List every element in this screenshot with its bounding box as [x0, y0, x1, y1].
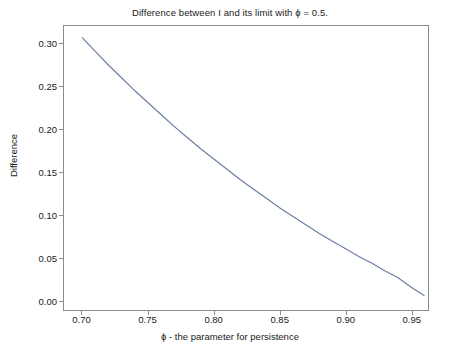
data-series-line	[82, 38, 424, 296]
y-tick-label: 0.20	[9, 123, 57, 134]
x-tick-mark	[81, 311, 82, 315]
y-tick-label: 0.00	[9, 295, 57, 306]
x-tick-mark	[412, 311, 413, 315]
y-tick-label: 0.30	[9, 38, 57, 49]
y-tick-label: 0.15	[9, 166, 57, 177]
x-tick-mark	[346, 311, 347, 315]
x-tick-label: 0.70	[56, 314, 106, 325]
y-tick-label: 0.25	[9, 80, 57, 91]
chart-title: Difference between I and its limit with …	[0, 7, 460, 18]
x-tick-mark	[214, 311, 215, 315]
y-tick-mark	[59, 43, 63, 44]
x-tick-label: 0.95	[387, 314, 437, 325]
x-tick-label: 0.90	[321, 314, 371, 325]
y-tick-mark	[59, 129, 63, 130]
x-tick-label: 0.85	[255, 314, 305, 325]
y-axis-tick-labels: 0.000.050.100.150.200.250.30	[5, 0, 57, 353]
plot-line-svg	[64, 26, 428, 310]
y-tick-mark	[59, 215, 63, 216]
chart-figure: Difference between I and its limit with …	[0, 0, 460, 353]
y-tick-label: 0.10	[9, 209, 57, 220]
y-tick-mark	[59, 258, 63, 259]
y-tick-mark	[59, 172, 63, 173]
x-tick-mark	[280, 311, 281, 315]
y-tick-mark	[59, 301, 63, 302]
x-tick-label: 0.80	[189, 314, 239, 325]
x-tick-label: 0.75	[123, 314, 173, 325]
plot-area	[63, 25, 429, 311]
x-axis-label: ϕ - the parameter for persistence	[0, 331, 460, 342]
x-tick-mark	[148, 311, 149, 315]
y-tick-label: 0.05	[9, 252, 57, 263]
y-tick-mark	[59, 86, 63, 87]
